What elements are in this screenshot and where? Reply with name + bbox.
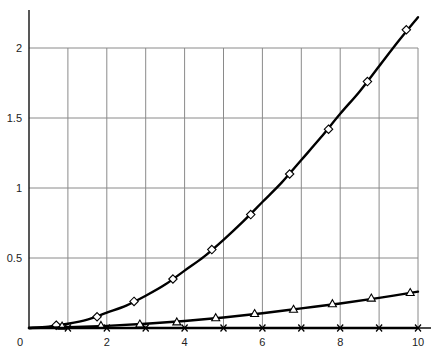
- x-tick-label: 2: [104, 336, 110, 348]
- line-chart: 02468100.511.52: [0, 0, 438, 352]
- y-tick-label: 2: [16, 42, 22, 54]
- x-tick-label: 6: [259, 336, 265, 348]
- axes: [29, 10, 431, 328]
- x-tick-label: 8: [337, 336, 343, 348]
- x-tick-label: 4: [182, 336, 188, 348]
- data-series: [29, 17, 421, 331]
- y-tick-label: 0.5: [7, 252, 22, 264]
- y-tick-label: 1: [16, 182, 22, 194]
- x-tick-label: 10: [412, 336, 424, 348]
- x-tick-label: 0: [17, 336, 23, 348]
- y-tick-label: 1.5: [7, 112, 22, 124]
- diamond-marker: [93, 313, 101, 321]
